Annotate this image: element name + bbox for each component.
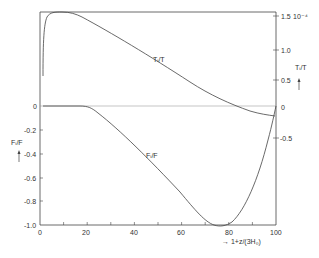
left-tick-label: -0.6: [24, 175, 36, 182]
right-tick-label: 1.5: [281, 13, 291, 20]
chart: Tᵢ/T Fᵢ/F 0 -0.2 -0.4 -0.6 -0.8 -1.0 Fᵢ/…: [0, 0, 319, 258]
x-tick-label: 0: [38, 229, 42, 236]
left-ticks: [40, 130, 43, 201]
right-tick-label: 0: [281, 104, 285, 111]
left-tick-label: -0.4: [24, 151, 36, 158]
curve-T-label: Tᵢ/T: [153, 56, 165, 63]
x-tick-label: 40: [130, 229, 138, 236]
left-tick-label: 0: [33, 103, 37, 110]
right-tick-label: -0.5: [280, 135, 292, 142]
up-arrow-head-icon: [18, 150, 21, 154]
right-axis-label: Tᵢ/T: [295, 64, 307, 71]
left-tick-label: -1.0: [24, 222, 36, 229]
x-axis-label: → 1+z/(3H₀): [222, 238, 261, 246]
x-ticks: [64, 222, 253, 225]
curve-F: [43, 106, 276, 226]
left-axis-label: Fᵢ/F: [11, 139, 23, 146]
left-tick-label: -0.8: [24, 198, 36, 205]
curve-F-label: Fᵢ/F: [146, 152, 158, 159]
right-tick-label: 1.0: [281, 47, 291, 54]
up-arrow-head-icon: [298, 78, 301, 82]
x-tick-label: 100: [270, 229, 282, 236]
x-tick-label: 60: [177, 229, 185, 236]
right-tick-label: 0.5: [281, 77, 291, 84]
left-tick-label: -0.2: [24, 127, 36, 134]
curve-T: [43, 12, 275, 116]
x-tick-label: 80: [225, 229, 233, 236]
right-axis-multiplier: 10⁻⁴: [293, 13, 308, 20]
x-tick-label: 20: [82, 229, 90, 236]
